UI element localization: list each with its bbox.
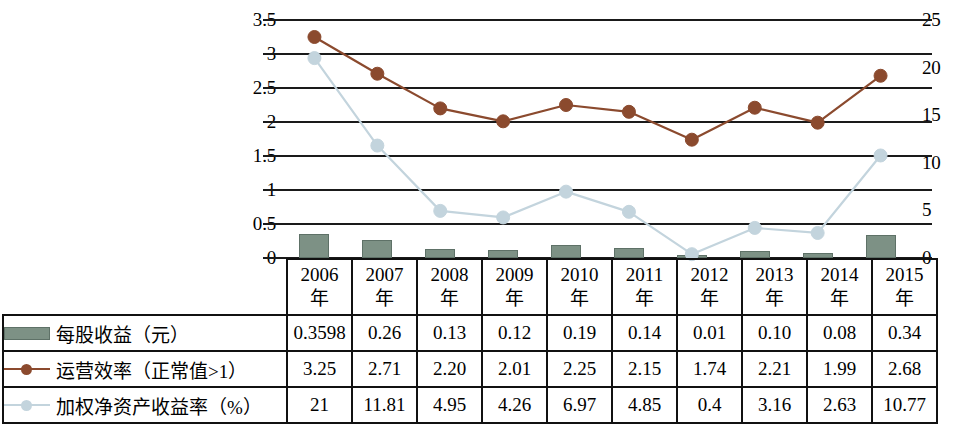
chart-root: 00.511.522.533.5 0510152025 2006年2007年20… [0,0,958,429]
table-row: 每股收益（元）0.35980.260.130.120.190.140.010.1… [3,315,937,351]
series-marker [371,67,384,80]
right-axis-tick-label: 20 [922,58,941,77]
series-marker [811,116,824,129]
table-corner-cell [3,259,287,315]
data-cell: 0.01 [677,315,742,351]
legend-marker-dot [21,400,32,411]
data-cell: 1.99 [807,351,872,387]
series-marker [874,69,887,82]
gridline-stub-left [263,223,283,225]
series-marker [497,211,510,224]
series-label: 加权净资产收益率（%） [56,392,262,419]
table-row: 加权净资产收益率（%）2111.814.954.266.974.850.43.1… [3,387,937,423]
year-number: 2007 [353,263,416,287]
series-marker [811,226,824,239]
legend-line-marker-swatch-icon [4,398,50,412]
gridline-stub-left [263,53,283,55]
year-header-cell: 2006年 [287,259,352,315]
year-suffix: 年 [483,287,546,311]
table-body: 每股收益（元）0.35980.260.130.120.190.140.010.1… [3,315,937,423]
series-marker [560,185,573,198]
legend-line-marker-swatch-icon [4,362,50,376]
gridline-stub-right [912,189,932,191]
year-number: 2011 [613,263,676,287]
series-marker [560,99,573,112]
legend-bar-swatch-icon [4,327,50,340]
data-cell: 0.26 [352,315,417,351]
series-marker [308,52,321,65]
right-axis-tick-label: 5 [922,200,931,219]
data-cell: 4.85 [612,387,677,423]
series-legend-cell: 加权净资产收益率（%） [3,387,287,423]
year-suffix: 年 [353,287,416,311]
series-marker [748,101,761,114]
data-cell: 2.71 [352,351,417,387]
data-cell: 4.95 [417,387,482,423]
series-marker [371,139,384,152]
year-header-cell: 2009年 [482,259,547,315]
gridline-stub-left [263,189,283,191]
data-cell: 10.77 [872,387,937,423]
series-marker [748,221,761,234]
gridline-stub-right [912,53,932,55]
year-number: 2010 [548,263,611,287]
data-cell: 0.4 [677,387,742,423]
plot-wrapper: 00.511.522.533.5 0510152025 [0,0,958,262]
year-suffix: 年 [678,287,741,311]
data-cell: 0.3598 [287,315,352,351]
year-number: 2009 [483,263,546,287]
year-suffix: 年 [548,287,611,311]
series-marker [622,205,635,218]
gridline-stub-right [912,223,932,225]
year-suffix: 年 [418,287,481,311]
data-cell: 4.26 [482,387,547,423]
year-header-cell: 2007年 [352,259,417,315]
series-legend-cell: 每股收益（元） [3,315,287,351]
year-number: 2014 [808,263,871,287]
data-cell: 2.20 [417,351,482,387]
year-number: 2008 [418,263,481,287]
year-suffix: 年 [808,287,871,311]
series-label: 每股收益（元） [56,320,189,347]
year-number: 2015 [873,263,936,287]
year-header-cell: 2010年 [547,259,612,315]
year-header-cell: 2011年 [612,259,677,315]
year-number: 2012 [678,263,741,287]
gridline-stub-left [263,19,283,21]
data-cell: 21 [287,387,352,423]
table-header-row: 2006年2007年2008年2009年2010年2011年2012年2013年… [3,259,937,315]
gridline-stub-left [263,87,283,89]
data-cell: 0.19 [547,315,612,351]
series-line [314,37,880,140]
year-header-cell: 2012年 [677,259,742,315]
data-cell: 11.81 [352,387,417,423]
year-number: 2013 [743,263,806,287]
table-row: 运营效率（正常值>1）3.252.712.202.012.252.151.742… [3,351,937,387]
data-cell: 0.14 [612,315,677,351]
data-cell: 0.34 [872,315,937,351]
data-cell: 0.10 [742,315,807,351]
data-cell: 2.68 [872,351,937,387]
data-cell: 3.25 [287,351,352,387]
data-cell: 2.15 [612,351,677,387]
line-series-layer [283,20,912,258]
data-cell: 0.13 [417,315,482,351]
series-label: 运营效率（正常值>1） [56,356,247,383]
data-cell: 6.97 [547,387,612,423]
year-header-cell: 2014年 [807,259,872,315]
data-cell: 0.12 [482,315,547,351]
series-line [314,58,880,254]
series-marker [622,105,635,118]
series-marker [308,31,321,44]
gridline-stub-right [912,87,932,89]
data-cell: 2.63 [807,387,872,423]
data-cell: 2.25 [547,351,612,387]
series-marker [874,149,887,162]
legend-marker-dot [21,364,32,375]
year-number: 2006 [288,263,351,287]
gridline-stub-right [912,19,932,21]
year-suffix: 年 [743,287,806,311]
series-marker [434,102,447,115]
data-cell: 0.08 [807,315,872,351]
series-marker [434,204,447,217]
